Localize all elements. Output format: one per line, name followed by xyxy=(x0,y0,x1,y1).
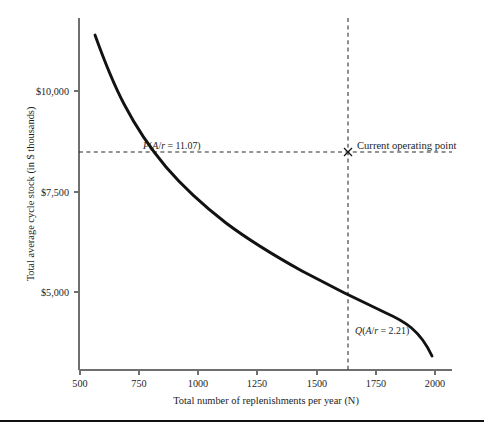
x-tick-label: 2000 xyxy=(425,378,445,389)
y-tick-label: $5,000 xyxy=(41,287,69,298)
x-tick-label: 1000 xyxy=(188,378,208,389)
x-axis-title-symbol: N xyxy=(348,395,356,406)
y-tick-label: $10,000 xyxy=(36,86,69,97)
x-tick-label: 1500 xyxy=(307,378,327,389)
annotation-point-q: Q(A/r = 2.21) xyxy=(355,325,409,337)
x-axis-title-text: Total number of replenishments per year xyxy=(173,395,342,406)
chart-figure: $10,000 $7,500 $5,000 500 750 1000 1250 … xyxy=(0,0,484,437)
x-tick-label: 500 xyxy=(72,378,87,389)
annotation-point-p: P(A/r = 11.07) xyxy=(142,140,201,152)
chart-background xyxy=(0,0,484,437)
x-tick-label: 750 xyxy=(131,378,146,389)
annotation-point-p-value: 11.07 xyxy=(176,140,198,151)
x-tick-label: 1750 xyxy=(366,378,386,389)
annotation-current-operating-point: Current operating point xyxy=(357,140,456,151)
y-axis-title: Total average cycle stock (in $ thousand… xyxy=(25,107,37,282)
footer-rule xyxy=(0,420,484,422)
chart-svg: $10,000 $7,500 $5,000 500 750 1000 1250 … xyxy=(0,0,484,437)
y-tick-label: $7,500 xyxy=(41,187,69,198)
x-tick-label: 1250 xyxy=(247,378,267,389)
x-axis-title: Total number of replenishments per year … xyxy=(173,395,359,407)
annotation-point-q-value: 2.21 xyxy=(389,325,406,336)
